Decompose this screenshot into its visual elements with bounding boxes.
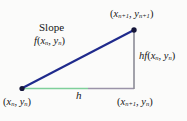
- euler-step-diagram: (xn+1, yn+1) Slope f(xn, yn) hf(xn, yn) …: [0, 0, 187, 121]
- label-slope-function: f(xn, yn): [34, 35, 65, 47]
- label-point-x-n-plus-1-y-n-plus-1: (xn+1, yn+1): [110, 8, 153, 20]
- vertex-dot-bottom-left: [19, 86, 24, 91]
- label-point-x-n-y-n: (xn, yn): [3, 96, 31, 108]
- label-rise-h-times-f: hf(xn, yn): [139, 50, 175, 62]
- label-step-size-h: h: [76, 90, 82, 102]
- vertex-dot-top-right: [131, 27, 136, 32]
- label-point-x-n-plus-1-y-n: (xn+1, yn): [117, 96, 153, 108]
- label-slope-title: Slope: [39, 22, 64, 34]
